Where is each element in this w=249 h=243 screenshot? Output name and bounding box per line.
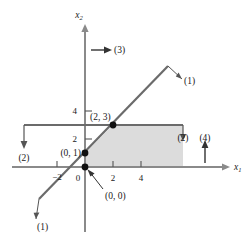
constraint-3-arrowhead (104, 47, 112, 54)
x-tick-label--2: −2 (52, 172, 62, 182)
point-marker-2-3 (110, 122, 117, 129)
y-tick-label-2: 2 (73, 134, 78, 144)
feasible-region-figure: x2 x1 −2 0 2 4 2 4 (2, 3) (0, 1) (0, 0) … (0, 0, 249, 243)
constraint-label-2-left: (2) (18, 153, 29, 164)
point-label-2-3: (2, 3) (90, 112, 111, 123)
constraint-2-left-arrowhead (21, 141, 28, 149)
point-label-0-0: (0, 0) (105, 191, 126, 202)
point-marker-0-1 (82, 150, 89, 157)
constraint-label-2-right: (2) (177, 133, 188, 144)
y-tick-label-4: 4 (73, 106, 78, 116)
constraint-label-1-lower: (1) (37, 222, 48, 233)
constraint-label-1-upper: (1) (184, 76, 195, 87)
constraint-label-4: (4) (199, 133, 210, 144)
x-tick-label-2: 2 (111, 173, 116, 183)
constraint-label-3: (3) (114, 45, 125, 56)
x-axis-label: x1 (233, 162, 242, 173)
point-marker-0-0 (82, 164, 89, 171)
x-tick-label-4: 4 (139, 173, 144, 183)
origin-leader-arrowhead (87, 169, 94, 176)
shaded-feasible-region (85, 125, 183, 167)
x-tick-label-0: 0 (76, 173, 81, 183)
constraint-1-lower-arrowhead (34, 212, 40, 219)
y-axis-label: x2 (74, 10, 83, 21)
x-axis-arrowhead (222, 163, 230, 170)
figure-canvas: x2 x1 −2 0 2 4 2 4 (2, 3) (0, 1) (0, 0) … (0, 0, 249, 243)
y-axis-arrowhead (81, 24, 88, 32)
point-label-0-1: (0, 1) (60, 148, 81, 159)
